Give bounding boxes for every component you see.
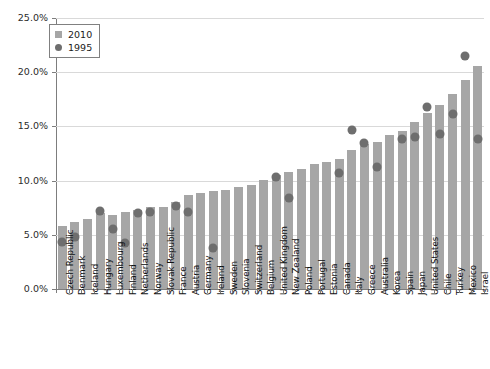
x-axis-tick-label: Korea [393,271,402,295]
x-axis-tick-label: Finland [129,264,138,295]
x-axis-tick-label: Japan [418,271,427,295]
y-axis-tick-mark [52,181,56,182]
x-axis-tick-label: Netherlands [141,243,150,295]
x-axis-tick-mark [69,289,70,293]
x-axis-tick-mark [295,289,296,293]
x-axis-tick-label: Denmark [78,256,87,296]
x-axis-tick-label: Australia [381,257,390,295]
x-axis-tick-label: Canada [343,262,352,295]
x-axis-tick-mark [308,289,309,293]
x-axis-tick-mark [408,289,409,293]
x-axis-tick-label: Slovak Republic [167,227,176,295]
x-axis-tick-mark [358,289,359,293]
x-axis-tick-label: Italy [355,276,364,295]
x-axis-tick-mark [257,289,258,293]
x-axis-tick-mark [396,289,397,293]
x-axis-tick-label: Greece [368,264,377,295]
x-axis-tick-mark [484,289,485,293]
x-axis-tick-label: Poland [305,266,314,295]
x-axis-tick-mark [182,289,183,293]
x-axis-tick-label: Estonia [330,263,339,295]
chart-legend: 2010 1995 [49,24,100,58]
x-axis-tick-mark [333,289,334,293]
x-axis-tick-label: United Kingdom [280,226,289,295]
x-axis-tick-mark [346,289,347,293]
legend-item-1995: 1995 [55,42,92,53]
x-axis-tick-label: Chile [444,273,453,295]
x-axis-tick-label: Luxembourg [116,241,125,295]
x-axis-tick-label: Belgium [267,260,276,295]
x-axis-tick-mark [106,289,107,293]
x-axis-tick-label: United States [431,237,440,295]
x-axis-tick-mark [157,289,158,293]
x-axis-tick-label: Ireland [217,265,226,295]
x-axis-tick-label: Germany [204,256,213,296]
x-axis-tick-mark [283,289,284,293]
x-axis-tick-mark [169,289,170,293]
x-axis-tick-mark [207,289,208,293]
x-axis-tick-label: New Zealand [292,239,301,295]
x-axis-tick-mark [94,289,95,293]
x-axis-tick-label: Hungary [104,258,113,295]
x-axis-tick-mark [144,289,145,293]
circle-swatch-icon [55,44,62,51]
x-axis-tick-mark [81,289,82,293]
x-axis-tick-label: Czech Republic [66,230,75,295]
x-axis-tick-label: Austria [192,265,201,295]
y-axis-tick-mark [52,72,56,73]
x-axis-tick-mark [459,289,460,293]
x-axis-tick-label: Iceland [91,264,100,295]
x-axis-tick-mark [320,289,321,293]
x-axis-tick-label: Portugal [318,259,327,295]
x-axis-tick-mark [434,289,435,293]
x-axis-tick-label: Slovenia [242,258,251,295]
x-axis-tick-mark [232,289,233,293]
x-axis-tick-label: Israel [481,272,490,296]
x-axis-tick-mark [220,289,221,293]
x-axis-tick-mark [194,289,195,293]
x-axis-tick-label: Turkey [456,267,465,295]
y-axis-tick-mark [52,18,56,19]
y-axis-tick-mark [52,126,56,127]
x-axis-tick-label: Mexico [469,265,478,295]
x-axis-tick-mark [421,289,422,293]
legend-label-2010: 2010 [68,30,92,40]
x-axis-tick-mark [383,289,384,293]
legend-label-1995: 1995 [68,43,92,53]
x-axis-tick-mark [471,289,472,293]
y-axis-tick-mark [52,235,56,236]
x-axis-tick-label: Sweden [230,261,239,295]
x-axis-tick-mark [56,289,57,293]
x-axis-tick-mark [132,289,133,293]
x-axis-tick-label: France [179,266,188,295]
x-axis-tick-mark [446,289,447,293]
x-axis-tick-mark [270,289,271,293]
x-axis-tick-mark [119,289,120,293]
legend-item-2010: 2010 [55,29,92,40]
x-axis-tick-label: Norway [154,262,163,295]
x-axis-tick-label: Switzerland [255,245,264,295]
x-axis-tick-mark [371,289,372,293]
x-axis-tick-mark [245,289,246,293]
square-swatch-icon [55,31,62,38]
x-axis-tick-label: Spain [406,271,415,295]
